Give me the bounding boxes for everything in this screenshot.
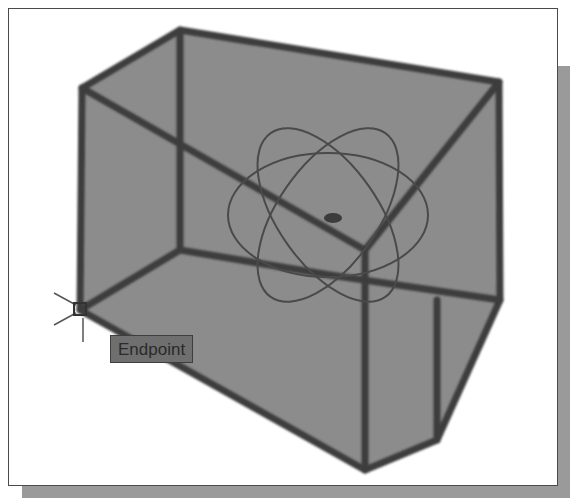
gizmo-center-icon[interactable]: [324, 213, 342, 223]
osnap-tooltip: Endpoint: [110, 335, 193, 363]
model-scene[interactable]: [0, 0, 576, 500]
